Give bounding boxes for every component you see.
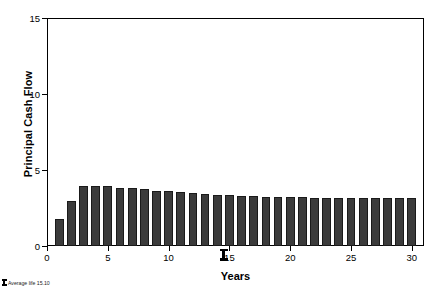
bar xyxy=(298,197,307,246)
x-axis-tick-label: 20 xyxy=(270,252,310,263)
y-axis-title: Principal Cash Flow xyxy=(22,44,34,204)
x-axis-tick-label: 30 xyxy=(392,252,432,263)
bar xyxy=(201,194,210,246)
bar xyxy=(371,198,380,246)
bar xyxy=(128,188,137,246)
bar xyxy=(383,198,392,246)
x-axis-tick xyxy=(412,246,413,251)
bar xyxy=(164,191,173,246)
bar xyxy=(176,192,185,246)
bar xyxy=(55,219,64,246)
bar xyxy=(249,196,258,246)
bar xyxy=(140,189,149,246)
bar xyxy=(79,186,88,246)
x-axis-tick-label: 25 xyxy=(331,252,371,263)
bar xyxy=(116,188,125,246)
x-axis-tick xyxy=(229,246,230,251)
bar xyxy=(359,198,368,246)
x-axis-tick-label: 0 xyxy=(27,252,67,263)
bar xyxy=(189,193,198,246)
bar xyxy=(152,191,161,246)
x-axis-title: Years xyxy=(47,270,424,282)
y-axis-tick-label: 5 xyxy=(4,166,40,175)
bar xyxy=(237,196,246,246)
x-axis-tick xyxy=(290,246,291,251)
bar xyxy=(286,197,295,246)
footnote: Average life 15.10 xyxy=(3,279,50,286)
x-axis-tick xyxy=(169,246,170,251)
x-axis-tick xyxy=(351,246,352,251)
bar xyxy=(262,197,271,246)
bar xyxy=(91,186,100,246)
y-axis-tick-label: 0 xyxy=(4,242,40,251)
bar xyxy=(213,195,222,246)
bar xyxy=(334,198,343,246)
footnote-text: Average life 15.10 xyxy=(8,280,50,286)
x-axis-tick-label: 10 xyxy=(149,252,189,263)
bar xyxy=(322,198,331,246)
footnote-marker-icon xyxy=(3,279,5,286)
average-life-marker-icon xyxy=(222,249,225,260)
bar xyxy=(274,197,283,246)
bar xyxy=(310,198,319,246)
x-axis-tick-label: 5 xyxy=(88,252,128,263)
y-axis-tick-label: 10 xyxy=(4,90,40,99)
bar-series xyxy=(47,18,424,246)
x-axis-tick-label: 15 xyxy=(209,252,249,263)
bar xyxy=(347,198,356,246)
y-axis-tick-label: 15 xyxy=(4,14,40,23)
x-axis-tick xyxy=(108,246,109,251)
chart-container: Principal Cash Flow 051015 051015202530 … xyxy=(0,0,437,292)
bar xyxy=(407,198,416,246)
bar xyxy=(103,186,112,246)
x-axis-tick xyxy=(47,246,48,251)
bar xyxy=(225,195,234,246)
bar xyxy=(67,201,76,246)
bar xyxy=(395,198,404,246)
